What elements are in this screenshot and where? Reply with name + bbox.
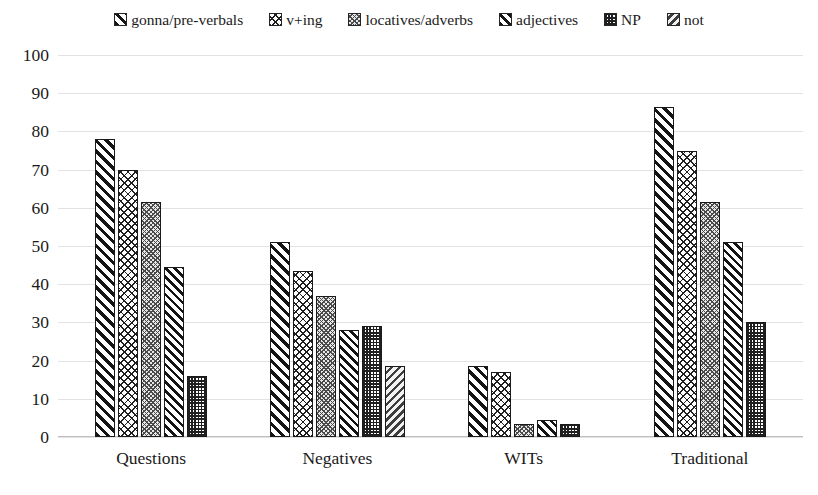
bar-negatives-gonna-pre-verbals[interactable] <box>270 242 290 437</box>
legend-label: not <box>684 12 704 27</box>
bar-traditional-adjectives[interactable] <box>723 242 743 437</box>
category-label-negatives: Negatives <box>244 448 430 468</box>
bar-wits-adjectives[interactable] <box>537 420 557 437</box>
legend-label: NP <box>621 12 641 27</box>
bar-group-questions <box>58 55 244 437</box>
y-axis-tick-label: 90 <box>32 85 50 102</box>
category-label-wits: WITs <box>431 448 617 468</box>
legend-swatch-icon <box>499 13 512 26</box>
bars <box>468 55 580 437</box>
bar-group-traditional <box>617 55 803 437</box>
gridline <box>58 437 803 438</box>
legend-item-np[interactable]: NP <box>604 12 641 27</box>
chart-legend: gonna/pre-verbals v+ing locatives/adverb… <box>0 12 818 27</box>
legend-item-not[interactable]: not <box>667 12 704 27</box>
bar-questions-locatives-adverbs[interactable] <box>141 202 161 437</box>
y-axis-tick-label: 60 <box>32 199 50 216</box>
bar-traditional-v-ing[interactable] <box>677 151 697 438</box>
legend-swatch-icon <box>667 13 680 26</box>
bars <box>95 55 207 437</box>
legend-swatch-icon <box>114 13 127 26</box>
category-label-questions: Questions <box>58 448 244 468</box>
legend-swatch-icon <box>348 13 361 26</box>
legend-label: adjectives <box>516 12 578 27</box>
y-axis-tick-label: 40 <box>32 276 50 293</box>
y-axis-tick-label: 30 <box>32 314 50 331</box>
legend-item-gonna-pre-verbals[interactable]: gonna/pre-verbals <box>114 12 243 27</box>
legend-swatch-icon <box>604 13 617 26</box>
y-axis-tick-label: 20 <box>32 352 50 369</box>
bar-wits-locatives-adverbs[interactable] <box>514 424 534 437</box>
legend-label: v+ing <box>286 12 322 27</box>
legend-label: locatives/adverbs <box>365 12 473 27</box>
y-axis-tick-label: 100 <box>23 47 49 64</box>
y-axis-tick-label: 0 <box>40 429 49 446</box>
category-label-traditional: Traditional <box>617 448 803 468</box>
plot-area: 1009080706050403020100 <box>58 55 803 437</box>
bar-negatives-adjectives[interactable] <box>339 330 359 437</box>
bar-traditional-gonna-pre-verbals[interactable] <box>654 107 674 437</box>
bar-wits-np[interactable] <box>560 424 580 437</box>
legend-item-locatives-adverbs[interactable]: locatives/adverbs <box>348 12 473 27</box>
bar-traditional-np[interactable] <box>746 322 766 437</box>
bars <box>270 55 405 437</box>
bar-wits-gonna-pre-verbals[interactable] <box>468 366 488 437</box>
legend-item-adjectives[interactable]: adjectives <box>499 12 578 27</box>
bar-wits-v-ing[interactable] <box>491 372 511 437</box>
y-axis-tick-label: 80 <box>32 123 50 140</box>
bars <box>654 55 766 437</box>
y-axis-tick-label: 70 <box>32 161 50 178</box>
bar-negatives-not[interactable] <box>385 366 405 437</box>
bar-negatives-locatives-adverbs[interactable] <box>316 296 336 437</box>
legend-item-v-ing[interactable]: v+ing <box>269 12 322 27</box>
legend-swatch-icon <box>269 13 282 26</box>
y-axis-tick-label: 50 <box>32 238 50 255</box>
bar-questions-gonna-pre-verbals[interactable] <box>95 139 115 437</box>
bar-group-wits <box>431 55 617 437</box>
bar-questions-v-ing[interactable] <box>118 170 138 437</box>
legend-label: gonna/pre-verbals <box>131 12 243 27</box>
x-axis-category-labels: QuestionsNegativesWITsTraditional <box>58 448 803 468</box>
bar-negatives-v-ing[interactable] <box>293 271 313 437</box>
bar-questions-np[interactable] <box>187 376 207 437</box>
y-axis-tick-label: 10 <box>32 390 50 407</box>
bar-chart: gonna/pre-verbals v+ing locatives/adverb… <box>0 0 818 495</box>
bar-groups <box>58 55 803 437</box>
bar-negatives-np[interactable] <box>362 326 382 437</box>
bar-group-negatives <box>244 55 430 437</box>
bar-questions-adjectives[interactable] <box>164 267 184 437</box>
bar-traditional-locatives-adverbs[interactable] <box>700 202 720 437</box>
